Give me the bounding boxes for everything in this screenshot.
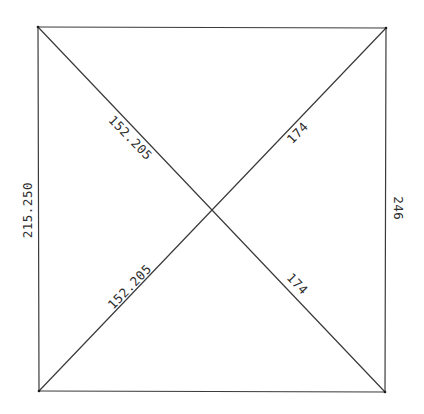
left-edge bbox=[38, 27, 39, 391]
top-edge bbox=[38, 27, 386, 28]
right-edge bbox=[385, 28, 386, 392]
left-side-label: 215.250 bbox=[22, 186, 35, 238]
vertex-bottom-left bbox=[38, 390, 41, 393]
vertex-top-left bbox=[37, 26, 40, 29]
vertex-bottom-right bbox=[384, 391, 387, 394]
square-diagram bbox=[0, 0, 424, 414]
right-side-label: 246 bbox=[392, 194, 405, 222]
bottom-edge bbox=[39, 391, 385, 392]
vertex-top-right bbox=[385, 27, 388, 30]
